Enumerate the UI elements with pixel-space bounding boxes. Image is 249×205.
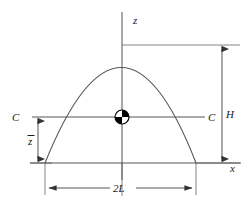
height-dimension-label: H xyxy=(225,108,235,120)
centroid-height-dimension-label-group: z xyxy=(27,135,35,147)
base-width-dimension-label: 2L xyxy=(113,182,125,194)
parabolic-centroid-figure: z x C C H z 2L xyxy=(0,0,249,205)
centroidal-axis-label-right: C xyxy=(208,111,216,123)
centroidal-axis-label-left: C xyxy=(12,111,20,123)
centroid-symbol xyxy=(115,110,129,124)
centroid-height-dimension-label: z xyxy=(27,135,33,147)
z-axis-label: z xyxy=(132,14,138,26)
figure-canvas: z x C C H z 2L xyxy=(0,0,249,205)
x-axis-label: x xyxy=(229,162,235,174)
